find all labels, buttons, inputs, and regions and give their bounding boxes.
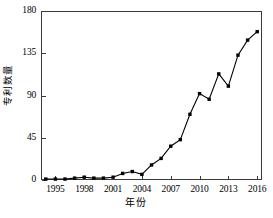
y-axis-label: 专利数量 (3, 53, 13, 117)
y-axis-tick-mark (42, 138, 46, 139)
y-axis-tick-label: 135 (6, 48, 36, 58)
x-axis-tick-mark (84, 176, 85, 180)
plot-area-frame (41, 11, 262, 180)
x-axis-tick-mark (113, 176, 114, 180)
patent-count-line-chart: 专利数量 年份 04590135180 19951998200120042007… (0, 0, 273, 218)
y-axis-tick-mark (42, 180, 46, 181)
y-axis-tick-mark (42, 53, 46, 54)
x-axis-tick-mark (228, 176, 229, 180)
x-axis-tick-mark (200, 176, 201, 180)
y-axis-tick-label: 90 (6, 91, 36, 101)
y-axis-tick-label: 45 (6, 133, 36, 143)
y-axis-tick-mark (42, 11, 46, 12)
x-axis-tick-mark (142, 176, 143, 180)
x-axis-tick-mark (55, 176, 56, 180)
x-axis-label: 年份 (96, 197, 176, 208)
y-axis-tick-label: 180 (6, 6, 36, 16)
y-axis-tick-mark (42, 96, 46, 97)
x-axis-tick-mark (257, 176, 258, 180)
y-axis-tick-label: 0 (6, 175, 36, 185)
x-axis-tick-label: 2016 (240, 185, 273, 195)
x-axis-tick-mark (171, 176, 172, 180)
